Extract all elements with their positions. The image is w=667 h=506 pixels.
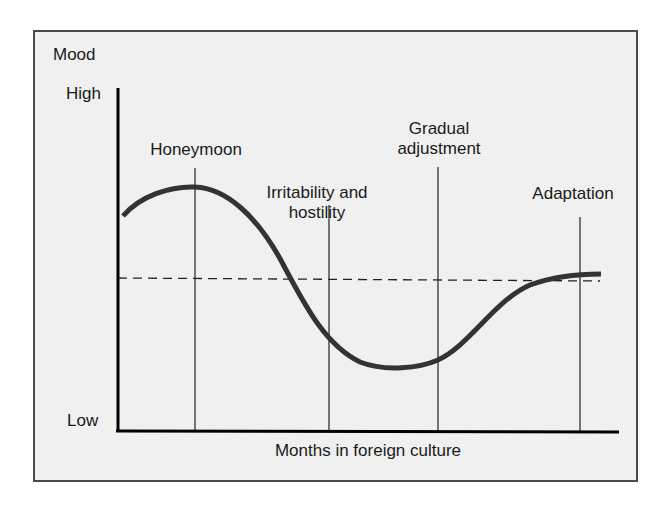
stage-label-irritability: Irritability and hostility: [266, 183, 367, 223]
stage-label-line: Irritability and: [266, 183, 367, 203]
stage-label-line: adjustment: [397, 139, 480, 159]
y-low-label: Low: [67, 411, 98, 431]
x-axis-title: Months in foreign culture: [275, 441, 461, 461]
stage-label-adaptation: Adaptation: [532, 184, 613, 204]
culture-shock-curve-chart: [0, 0, 667, 506]
stage-label-line: Honeymoon: [150, 140, 242, 160]
stage-label-line: hostility: [266, 203, 367, 223]
x-axis: [116, 431, 619, 432]
stage-label-gradual-adjustment: Gradual adjustment: [397, 119, 480, 159]
y-high-label: High: [66, 84, 101, 104]
dashed-reference-line: [118, 278, 600, 281]
stage-label-honeymoon: Honeymoon: [150, 140, 242, 160]
y-axis-title: Mood: [53, 45, 96, 65]
stage-label-line: Gradual: [397, 119, 480, 139]
stage-label-line: Adaptation: [532, 184, 613, 204]
